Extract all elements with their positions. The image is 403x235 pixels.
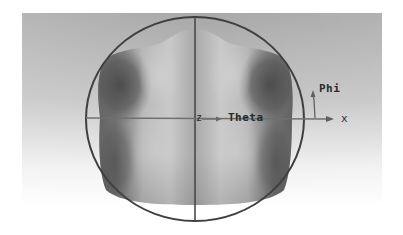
x-axis-label: x xyxy=(341,112,348,125)
phi-label: Phi xyxy=(319,82,340,95)
radiation-pattern-figure: z Theta Phi x xyxy=(0,0,403,235)
theta-label: Theta xyxy=(228,111,264,124)
z-axis-label: z xyxy=(196,112,202,123)
